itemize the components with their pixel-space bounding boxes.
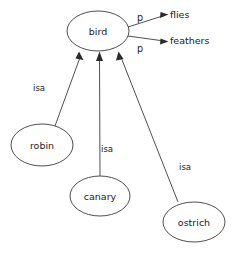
arrowhead-icon <box>96 52 103 62</box>
edge-line <box>100 58 101 176</box>
arrowhead-icon <box>160 39 169 45</box>
diagram-canvas: isa isa isa p p bird <box>0 0 236 255</box>
arrowhead-icon <box>160 12 169 18</box>
edge-label-isa-robin: isa <box>33 83 45 93</box>
edge-bird-p-feathers: p <box>128 36 169 54</box>
edge-label-p-flies: p <box>137 12 143 23</box>
node-ostrich[interactable]: ostrich <box>163 202 225 242</box>
edge-line <box>128 36 164 41</box>
node-label-robin: robin <box>30 140 54 151</box>
value-label-feathers: feathers <box>170 35 210 46</box>
edge-bird-p-flies: p <box>128 12 169 27</box>
node-bird[interactable]: bird <box>67 11 129 51</box>
arrowhead-icon <box>116 52 124 61</box>
edge-label-isa-canary: isa <box>101 144 113 154</box>
edge-line <box>121 56 179 202</box>
node-canary[interactable]: canary <box>70 176 130 216</box>
edge-canary-isa-bird: isa <box>96 52 113 177</box>
edge-line <box>128 16 164 28</box>
node-robin[interactable]: robin <box>11 124 73 166</box>
node-label-bird: bird <box>89 26 107 37</box>
arrowhead-icon <box>76 52 84 61</box>
edge-label-isa-ostrich: isa <box>179 162 191 172</box>
edge-robin-isa-bird: isa <box>33 52 84 127</box>
edge-ostrich-isa-bird: isa <box>116 52 191 203</box>
node-label-ostrich: ostrich <box>178 217 210 228</box>
value-label-flies: flies <box>170 9 189 20</box>
edge-line <box>55 56 81 126</box>
edge-label-p-feathers: p <box>137 43 143 54</box>
node-label-canary: canary <box>84 191 117 202</box>
semantic-network-diagram: isa isa isa p p bird <box>0 0 236 255</box>
